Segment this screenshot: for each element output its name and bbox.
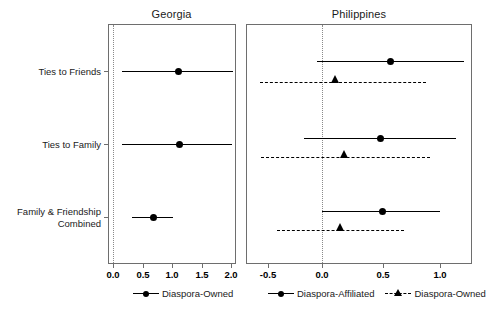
y-axis-label-ties-to-family: Ties to Family bbox=[0, 139, 101, 151]
georgia-x-tick-label-4: 2.0 bbox=[224, 269, 237, 280]
georgia-x-tick-2 bbox=[172, 264, 173, 268]
georgia-x-tick-0 bbox=[113, 264, 114, 268]
legend-entry-diaspora-affiliated[interactable]: Diaspora-Affiliated bbox=[268, 288, 374, 299]
georgia-point-ties-to-family bbox=[176, 141, 183, 148]
georgia-point-ties-to-friends bbox=[175, 68, 182, 75]
georgia-x-tick-label-1: 0.5 bbox=[136, 269, 149, 280]
legend-label-diaspora-owned-philippines: Diaspora-Owned bbox=[414, 288, 485, 299]
y-axis-label-family-friendship-combined: Family & Friendship Combined bbox=[0, 206, 101, 229]
legend-key-circle-solid-icon bbox=[268, 289, 294, 298]
philippines-owned-ci-ties-to-friends bbox=[260, 82, 426, 83]
philippines-affiliated-point-family-friendship-combined bbox=[379, 208, 386, 215]
legend-entry-diaspora-owned-georgia[interactable]: Diaspora-Owned bbox=[133, 288, 233, 299]
philippines-affiliated-point-ties-to-family bbox=[377, 135, 384, 142]
philippines-affiliated-point-ties-to-friends bbox=[387, 58, 394, 65]
panel-philippines bbox=[246, 24, 472, 264]
georgia-x-tick-4 bbox=[231, 264, 232, 268]
legend-entry-diaspora-owned-philippines[interactable]: Diaspora-Owned bbox=[385, 288, 485, 299]
georgia-x-tick-1 bbox=[143, 264, 144, 268]
philippines-x-tick-1 bbox=[322, 264, 323, 268]
legend-georgia: Diaspora-Owned bbox=[133, 288, 233, 299]
philippines-owned-point-ties-to-friends bbox=[331, 75, 339, 83]
philippines-owned-point-family-friendship-combined bbox=[336, 223, 344, 231]
legend-key-circle-solid-icon bbox=[133, 289, 159, 298]
philippines-x-tick-2 bbox=[383, 264, 384, 268]
panel-title-georgia: Georgia bbox=[108, 8, 235, 20]
philippines-x-tick-label-0: -0.5 bbox=[260, 269, 276, 280]
forest-plot-figure: Georgia Philippines Ties to Friends Ties… bbox=[0, 0, 490, 316]
philippines-x-tick-label-1: 0.0 bbox=[315, 269, 328, 280]
panel-title-philippines: Philippines bbox=[246, 8, 472, 20]
philippines-x-tick-label-3: 1.0 bbox=[433, 269, 446, 280]
y-axis-label-ties-to-friends: Ties to Friends bbox=[0, 66, 101, 78]
georgia-x-tick-label-0: 0.0 bbox=[106, 269, 119, 280]
legend-philippines: Diaspora-Affiliated Diaspora-Owned bbox=[268, 288, 486, 299]
philippines-x-tick-label-2: 0.5 bbox=[376, 269, 389, 280]
legend-key-triangle-dashed-icon bbox=[385, 289, 411, 298]
philippines-x-tick-0 bbox=[268, 264, 269, 268]
philippines-owned-point-ties-to-family bbox=[340, 150, 348, 158]
georgia-x-tick-3 bbox=[202, 264, 203, 268]
legend-label-diaspora-owned-georgia: Diaspora-Owned bbox=[162, 288, 233, 299]
georgia-point-family-friendship-combined bbox=[150, 214, 157, 221]
georgia-reference-line-zero bbox=[113, 25, 114, 263]
georgia-x-tick-label-2: 1.0 bbox=[165, 269, 178, 280]
philippines-x-tick-3 bbox=[440, 264, 441, 268]
legend-label-diaspora-affiliated: Diaspora-Affiliated bbox=[297, 288, 374, 299]
georgia-x-tick-label-3: 1.5 bbox=[195, 269, 208, 280]
